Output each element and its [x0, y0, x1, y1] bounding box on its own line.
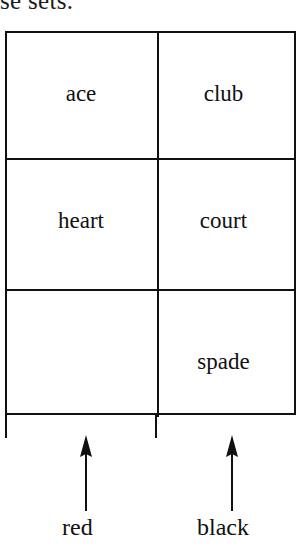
table-cell-r2c2: court	[157, 160, 294, 291]
figure-canvas: se sets. ace club heart court spade	[0, 0, 307, 548]
table-row: heart court	[7, 158, 294, 291]
table-row: ace club	[7, 33, 294, 158]
table-cell-r1c2: club	[157, 33, 294, 158]
table-cell-r3c1-empty	[7, 291, 157, 417]
table-border-stub-left	[5, 415, 7, 438]
arrow-label-red: red	[62, 515, 93, 539]
cell-text: spade	[197, 350, 249, 373]
table-row: spade	[7, 289, 294, 417]
cell-text: club	[204, 82, 244, 105]
cell-text: ace	[66, 82, 97, 105]
table-border-stub-middle	[155, 415, 157, 438]
card-category-table: ace club heart court spade	[5, 31, 296, 415]
cell-text: heart	[58, 209, 104, 232]
arrow-up-icon-red-column	[78, 435, 94, 511]
cell-text: court	[200, 209, 247, 232]
table-cell-r3c2: spade	[157, 291, 294, 417]
table-cell-r2c1: heart	[7, 160, 157, 291]
clipped-heading-fragment: se sets.	[0, 0, 307, 16]
table-cell-r1c1: ace	[7, 33, 157, 158]
arrow-up-icon-black-column	[224, 435, 240, 511]
arrow-label-black: black	[197, 515, 249, 539]
